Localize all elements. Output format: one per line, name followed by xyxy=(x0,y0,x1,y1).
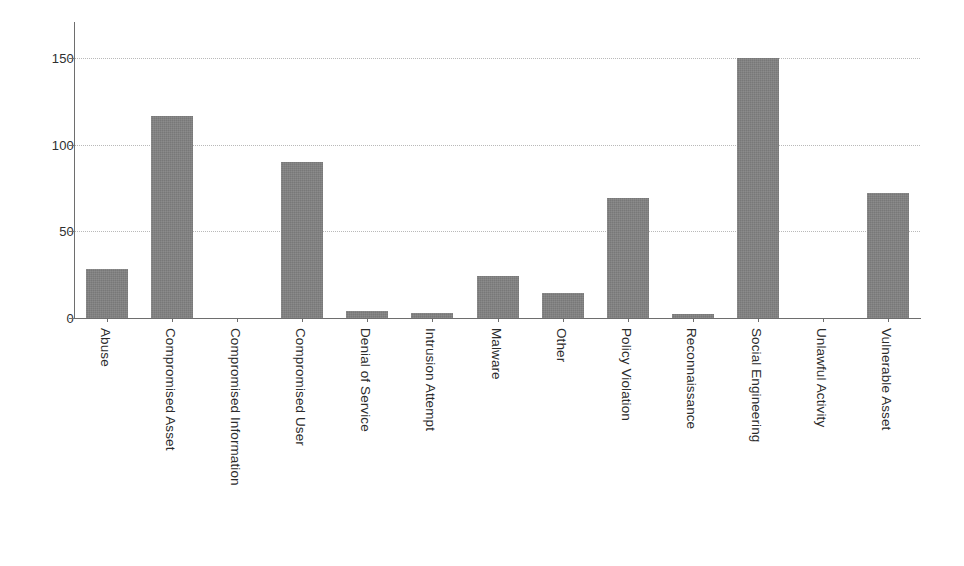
y-tick-label-0: 0 xyxy=(16,311,74,326)
x-tick-mark xyxy=(563,318,564,322)
x-axis-label: Compromised Asset xyxy=(163,328,177,451)
y-axis-ticks: 150 100 50 0 xyxy=(0,0,74,341)
x-axis-label: Compromised Information xyxy=(228,328,242,486)
x-axis-label: Reconnaissance xyxy=(684,328,698,429)
x-axis-label: Policy Violation xyxy=(619,328,633,421)
y-tick-mark-0 xyxy=(69,318,74,319)
bars-layer xyxy=(74,22,921,318)
bar[interactable] xyxy=(607,198,649,318)
bar-chart: 150 100 50 0 AbuseCompromised AssetCompr… xyxy=(0,0,964,566)
x-axis-label: Malware xyxy=(489,328,503,380)
x-tick-mark xyxy=(628,318,629,322)
x-axis-label: Other xyxy=(554,328,568,362)
bar[interactable] xyxy=(346,311,388,318)
bar[interactable] xyxy=(867,193,909,318)
bar[interactable] xyxy=(281,162,323,318)
x-axis-labels: AbuseCompromised AssetCompromised Inform… xyxy=(74,322,921,552)
bar[interactable] xyxy=(737,58,779,318)
bar[interactable] xyxy=(477,276,519,318)
bar[interactable] xyxy=(151,116,193,318)
x-axis-label: Abuse xyxy=(98,328,112,367)
x-tick-mark xyxy=(758,318,759,322)
x-tick-mark xyxy=(823,318,824,322)
x-axis-label: Social Engineering xyxy=(750,328,764,442)
y-tick-label-100: 100 xyxy=(16,138,74,153)
x-tick-mark xyxy=(237,318,238,322)
bar[interactable] xyxy=(86,269,128,318)
x-tick-mark xyxy=(367,318,368,322)
x-tick-mark xyxy=(302,318,303,322)
x-tick-mark xyxy=(888,318,889,322)
x-tick-mark xyxy=(693,318,694,322)
x-axis-label: Unlawful Activity xyxy=(815,328,829,427)
x-axis-label: Vulnerable Asset xyxy=(880,328,894,430)
y-tick-label-150: 150 xyxy=(16,51,74,66)
x-axis-label: Intrusion Attempt xyxy=(424,328,438,431)
x-axis-label: Compromised User xyxy=(294,328,308,446)
x-tick-mark xyxy=(172,318,173,322)
x-tick-mark xyxy=(498,318,499,322)
x-tick-mark xyxy=(107,318,108,322)
x-axis-label: Denial of Service xyxy=(359,328,373,432)
y-tick-label-50: 50 xyxy=(16,224,74,239)
x-tick-mark xyxy=(432,318,433,322)
bar[interactable] xyxy=(542,293,584,318)
